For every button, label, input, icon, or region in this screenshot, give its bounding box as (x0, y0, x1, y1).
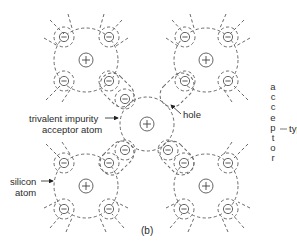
nucleus-plus-icon (140, 117, 154, 131)
bond-bottom-right (155, 136, 199, 180)
electron-icon (54, 27, 74, 47)
nucleus-plus-icon (199, 179, 213, 193)
silicon-label-line2: atom (15, 187, 36, 198)
hole-arrow-icon (171, 105, 181, 114)
impurity-label-line2: acceptor atom (42, 124, 102, 135)
nucleus-plus-icon (79, 179, 93, 193)
nucleus-plus-icon (79, 53, 93, 67)
electron-icon (174, 153, 194, 173)
electron-icon (115, 89, 135, 109)
electron-icon (54, 199, 74, 219)
figure-caption: (b) (141, 225, 153, 236)
electron-icon (218, 27, 238, 47)
bond-bottom-left (95, 136, 139, 180)
silicon-label-line1: silicon (10, 176, 36, 187)
silicon-atom-bottom-right (166, 142, 250, 232)
silicon-atom-bottom-left (44, 142, 128, 232)
hole-label: hole (183, 109, 201, 120)
electron-icon (158, 140, 178, 160)
bond-top-left (95, 68, 139, 112)
electron-icon (218, 199, 238, 219)
electron-icon (99, 153, 119, 173)
impurity-label-line1: trivalent impurity (29, 113, 98, 124)
bond-top-right-with-hole (155, 68, 199, 112)
electron-icon (115, 140, 135, 160)
electron-icon (99, 27, 119, 47)
electron-icon (54, 153, 74, 173)
nucleus-plus-icon (199, 53, 213, 67)
acceptor-vertical-label: a c c e p t o r (268, 82, 278, 164)
electron-icon (175, 27, 195, 47)
electron-icon (218, 153, 238, 173)
type-label: type (289, 123, 297, 134)
